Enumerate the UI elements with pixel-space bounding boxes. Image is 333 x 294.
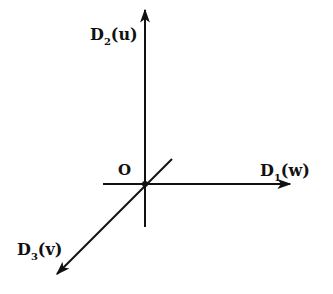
coordinate-diagram: O D2(u) D1(w) D3(v) bbox=[0, 0, 333, 294]
origin-point bbox=[142, 181, 148, 187]
axis-d3-line bbox=[57, 159, 172, 274]
axis-d1-label: D1(w) bbox=[260, 161, 310, 183]
origin-label: O bbox=[118, 161, 131, 179]
axis-d3-label: D3(v) bbox=[17, 240, 62, 262]
axis-d2-label: D2(u) bbox=[90, 25, 138, 47]
